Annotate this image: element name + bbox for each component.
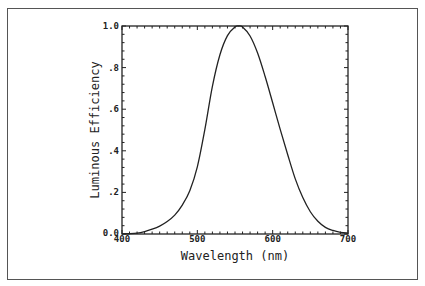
y-tick-label: .4 — [108, 146, 119, 156]
x-axis-title: Wavelength (nm) — [181, 249, 289, 263]
x-tick-label: 700 — [340, 234, 356, 244]
y-tick-label: .2 — [108, 187, 119, 197]
y-axis-title: Luminous Efficiency — [88, 61, 102, 198]
x-tick-label: 600 — [265, 234, 281, 244]
y-tick-label: 1.0 — [103, 21, 119, 31]
plot-area — [122, 26, 348, 234]
x-tick-label: 400 — [114, 234, 130, 244]
y-tick-label: .8 — [108, 63, 119, 73]
luminous-efficiency-chart: 1.0 .8 .6 .4 .2 0.0 400 500 600 700 Wave… — [0, 0, 425, 286]
data-curve — [122, 26, 348, 234]
x-tick-label: 500 — [189, 234, 205, 244]
axis-ticks — [122, 26, 348, 234]
y-tick-label: .6 — [108, 104, 119, 114]
